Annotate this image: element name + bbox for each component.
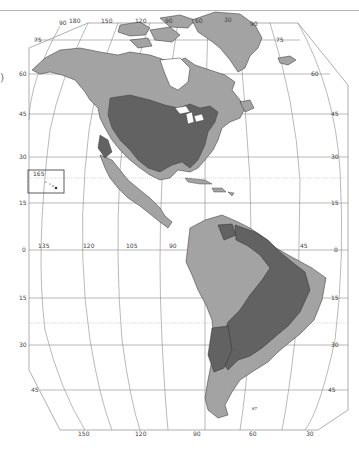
svg-text:30: 30 xyxy=(331,153,339,160)
svg-text:90: 90 xyxy=(250,20,258,27)
svg-text:15: 15 xyxy=(331,294,339,301)
svg-text:180: 180 xyxy=(69,17,81,24)
svg-text:60: 60 xyxy=(311,70,319,77)
svg-text:45: 45 xyxy=(331,110,339,117)
svg-text:30: 30 xyxy=(19,153,27,160)
svg-text:75: 75 xyxy=(34,36,42,43)
svg-text:15: 15 xyxy=(331,199,339,206)
svg-text:45: 45 xyxy=(31,386,39,393)
svg-text:165: 165 xyxy=(33,170,45,177)
svg-text:90: 90 xyxy=(193,430,201,437)
svg-text:60: 60 xyxy=(195,17,203,24)
svg-text:30: 30 xyxy=(306,430,314,437)
svg-text:75: 75 xyxy=(276,36,284,43)
svg-text:30: 30 xyxy=(224,16,232,23)
americas-map: 90 180 150 120 90 60 30 90 75 60 45 30 1… xyxy=(0,0,359,459)
svg-text:120: 120 xyxy=(135,17,147,24)
svg-text:45: 45 xyxy=(328,386,336,393)
svg-text:15: 15 xyxy=(19,199,27,206)
svg-text:45: 45 xyxy=(300,242,308,249)
svg-text:150: 150 xyxy=(101,17,113,24)
svg-text:0: 0 xyxy=(22,246,26,253)
svg-text:90: 90 xyxy=(169,242,177,249)
svg-text:150: 150 xyxy=(78,430,90,437)
svg-text:60: 60 xyxy=(19,70,27,77)
svg-text:105: 105 xyxy=(126,242,138,249)
svg-text:120: 120 xyxy=(135,430,147,437)
svg-text:30: 30 xyxy=(19,341,27,348)
hawaii-islands xyxy=(45,181,57,189)
svg-text:45: 45 xyxy=(19,110,27,117)
svg-text:15: 15 xyxy=(19,294,27,301)
svg-text:67: 67 xyxy=(252,406,258,411)
svg-text:60: 60 xyxy=(249,430,257,437)
svg-text:30: 30 xyxy=(331,341,339,348)
svg-text:120: 120 xyxy=(83,242,95,249)
svg-text:90: 90 xyxy=(165,17,173,24)
svg-text:135: 135 xyxy=(38,242,50,249)
svg-text:0: 0 xyxy=(334,246,338,253)
svg-text:90: 90 xyxy=(59,19,67,26)
caribbean-islands xyxy=(185,178,234,196)
